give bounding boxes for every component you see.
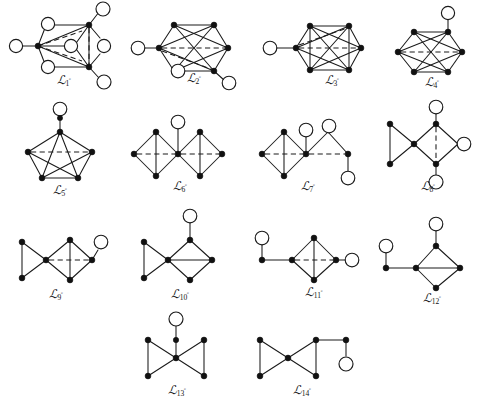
graph-svg-L14: [246, 318, 364, 392]
graph-label-L11: ℒ11◦: [305, 286, 323, 300]
graph-diagram-L9: ℒ9◦: [12, 228, 116, 296]
vertex-filled: [153, 129, 159, 135]
graph-label-L1: ℒ1◦: [57, 74, 71, 88]
vertex-filled: [395, 49, 401, 55]
vertices-L14: [257, 337, 353, 379]
graph-svg-L7: [250, 110, 368, 190]
vertex-filled: [257, 337, 263, 343]
vertex-filled: [131, 151, 137, 157]
vertex-filled: [281, 129, 287, 135]
vertex-open: [379, 239, 393, 253]
vertex-filled: [19, 239, 25, 245]
vertex-filled: [173, 337, 178, 342]
vertex-filled: [259, 257, 265, 263]
label-superscript: ◦: [437, 77, 439, 84]
vertex-filled: [211, 68, 217, 74]
vertex-filled: [165, 257, 171, 263]
graph-label-L9: ℒ9◦: [49, 288, 63, 302]
vertex-filled: [197, 129, 203, 135]
vertex-filled: [145, 373, 151, 379]
label-base: ℒ: [423, 291, 432, 305]
vertex-filled: [257, 373, 263, 379]
vertex-filled: [311, 277, 317, 283]
vertex-filled: [289, 257, 295, 263]
label-base: ℒ: [293, 383, 302, 397]
label-superscript: ◦: [337, 75, 339, 82]
vertex-filled: [156, 45, 162, 51]
graph-label-L4: ℒ4◦: [425, 76, 439, 90]
graph-svg-L10: [128, 208, 232, 296]
vertex-filled: [413, 265, 419, 271]
vertex-filled: [175, 151, 181, 157]
vertex-filled: [411, 69, 417, 75]
label-superscript: ◦: [433, 181, 435, 188]
vertex-open: [322, 119, 336, 133]
vertex-filled: [201, 373, 207, 379]
graph-svg-L2: [126, 10, 241, 90]
vertex-filled: [457, 265, 463, 271]
label-superscript: ◦: [309, 385, 311, 392]
graph-label-L5: ℒ5◦: [53, 184, 67, 198]
label-base: ℒ: [421, 179, 430, 193]
label-base: ℒ: [187, 71, 196, 85]
label-base: ℒ: [325, 73, 334, 87]
edges-L9: [22, 240, 98, 280]
vertex-open: [429, 100, 443, 114]
vertex-open: [222, 76, 236, 90]
graph-diagram-L4: ℒ4◦: [370, 8, 478, 90]
vertex-open: [441, 6, 454, 19]
vertex-open: [9, 39, 22, 52]
vertex-filled: [307, 67, 313, 73]
vertex-open: [131, 41, 145, 55]
vertex-filled: [459, 49, 465, 55]
vertex-filled: [219, 151, 225, 157]
vertex-filled: [89, 149, 95, 155]
vertex-filled: [187, 237, 193, 243]
vertices-L2: [131, 22, 236, 90]
label-base: ℒ: [305, 285, 314, 299]
vertex-filled: [433, 285, 439, 291]
vertex-filled: [141, 275, 147, 281]
vertex-filled: [209, 257, 215, 263]
graph-figure: ℒ1◦: [0, 0, 480, 404]
vertex-filled: [67, 237, 73, 243]
label-superscript: ◦: [199, 73, 201, 80]
vertex-filled: [433, 121, 439, 127]
label-base: ℒ: [301, 179, 310, 193]
vertex-open: [171, 115, 185, 129]
graph-diagram-L1: ℒ1◦: [4, 2, 124, 90]
label-superscript: ◦: [187, 289, 189, 296]
label-superscript: ◦: [61, 289, 63, 296]
label-superscript: ◦: [184, 385, 186, 392]
vertices-L11: [255, 231, 359, 283]
label-superscript: ◦: [321, 287, 323, 294]
label-base: ℒ: [57, 73, 66, 87]
edges-L10: [144, 222, 212, 280]
vertex-open: [97, 39, 110, 52]
vertex-filled: [225, 45, 231, 51]
vertices-L7: [259, 119, 355, 185]
vertex-filled: [153, 173, 159, 179]
vertex-open: [299, 123, 313, 137]
label-superscript: ◦: [185, 181, 187, 188]
vertex-open: [94, 235, 108, 249]
graph-diagram-L11: ℒ11◦: [248, 218, 364, 296]
vertex-open: [41, 17, 54, 30]
edges-L14: [260, 340, 346, 376]
edges-L4: [398, 18, 462, 72]
vertex-filled: [43, 257, 49, 263]
vertex-filled: [281, 173, 287, 179]
vertex-filled: [57, 129, 63, 135]
vertex-filled: [145, 337, 151, 343]
vertex-filled: [333, 257, 339, 263]
graph-diagram-L5: ℒ5◦: [8, 102, 118, 188]
vertices-L9: [19, 235, 108, 283]
label-base: ℒ: [173, 179, 182, 193]
label-superscript: ◦: [313, 181, 315, 188]
vertex-filled: [346, 23, 352, 29]
vertex-open: [53, 102, 67, 116]
graph-svg-L3: [248, 12, 366, 90]
vertex-open: [64, 39, 77, 52]
graph-diagram-L8: ℒ8◦: [372, 102, 478, 192]
vertex-filled: [411, 141, 417, 147]
